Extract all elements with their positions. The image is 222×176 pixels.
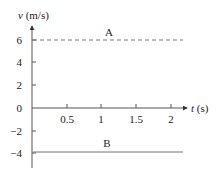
x-ticks: 0.5 1 1.5 2 <box>60 104 174 125</box>
svg-text:6: 6 <box>17 34 23 46</box>
svg-text:−2: −2 <box>10 125 22 137</box>
series-b-label: B <box>103 137 110 149</box>
svg-text:0.5: 0.5 <box>60 113 74 125</box>
y-axis-label: v (m/s) <box>18 9 49 22</box>
velocity-time-chart: v (m/s) t (s) 6 4 2 0 −2 −4 0.5 1 1.5 2 … <box>0 0 222 176</box>
x-axis-label: t (s) <box>191 102 209 115</box>
svg-text:1.5: 1.5 <box>129 113 143 125</box>
svg-text:4: 4 <box>17 56 23 68</box>
series-a-label: A <box>105 26 113 38</box>
svg-text:1: 1 <box>98 113 104 125</box>
svg-text:−4: −4 <box>10 147 22 159</box>
svg-text:2: 2 <box>168 113 174 125</box>
svg-text:0: 0 <box>17 102 23 114</box>
svg-text:2: 2 <box>17 79 23 91</box>
